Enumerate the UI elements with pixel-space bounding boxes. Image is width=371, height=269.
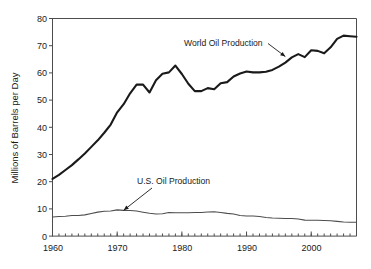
x-tick-label-1980: 1980 bbox=[172, 243, 192, 253]
annotation-label-world-oil-production: World Oil Production bbox=[184, 38, 263, 48]
y-tick-label-50: 50 bbox=[37, 95, 47, 105]
annotation-arrowhead-world bbox=[280, 52, 285, 57]
y-tick-label-10: 10 bbox=[37, 204, 47, 214]
chart-svg: Millions of Barrels per Day 80 70 60 50 … bbox=[0, 0, 371, 269]
y-tick-label-0: 0 bbox=[42, 232, 47, 242]
x-tick-label-1960: 1960 bbox=[43, 243, 63, 253]
y-tick-label-30: 30 bbox=[37, 150, 47, 160]
annotation-leader-us bbox=[124, 188, 152, 210]
y-tick-label-20: 20 bbox=[37, 177, 47, 187]
x-tick-label-1970: 1970 bbox=[108, 243, 128, 253]
y-tick-label-80: 80 bbox=[37, 14, 47, 24]
y-tick-label-40: 40 bbox=[37, 123, 47, 133]
series-line-us-oil-production bbox=[53, 210, 357, 222]
y-tick-label-70: 70 bbox=[37, 41, 47, 51]
oil-production-chart-figure: Millions of Barrels per Day 80 70 60 50 … bbox=[0, 0, 371, 269]
x-tick-label-1990: 1990 bbox=[237, 243, 257, 253]
x-tick-label-2000: 2000 bbox=[302, 243, 322, 253]
series-line-world-oil-production bbox=[53, 36, 357, 179]
annotation-label-us-oil-production: U.S. Oil Production bbox=[137, 176, 210, 186]
y-tick-label-60: 60 bbox=[37, 68, 47, 78]
y-axis-title: Millions of Barrels per Day bbox=[9, 72, 20, 183]
